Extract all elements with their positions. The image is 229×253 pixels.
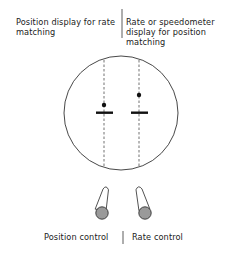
rate-control-lever[interactable] xyxy=(136,186,152,219)
rate-display-label: Rate or speedometer display for position… xyxy=(126,17,226,47)
right-indicator-bar xyxy=(131,112,148,114)
position-control-label: Position control xyxy=(44,232,108,242)
position-display-label: Position display for rate matching xyxy=(16,17,116,37)
left-indicator-dot xyxy=(102,103,106,107)
right-indicator-dot xyxy=(137,93,141,97)
left-indicator-bar xyxy=(96,112,113,114)
rate-control-label: Rate control xyxy=(132,232,183,242)
display-dial xyxy=(64,56,178,170)
position-control-lever[interactable] xyxy=(95,186,109,219)
